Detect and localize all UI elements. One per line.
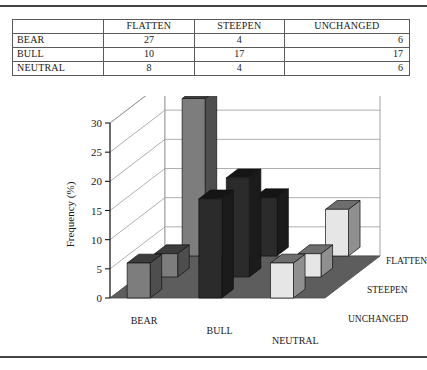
row-label-bear: BEAR: [13, 34, 104, 48]
y-axis-tick-label: 10: [91, 234, 103, 246]
column-header-unchanged: UNCHANGED: [284, 20, 409, 34]
table-row: BEAR 27 4 6: [13, 34, 410, 48]
cell-bull-flatten: 10: [104, 48, 195, 62]
y-axis-tick-label: 15: [91, 205, 103, 217]
x-axis-label-neutral: NEUTRAL: [272, 335, 319, 346]
page-top-rule: [0, 5, 427, 7]
x-axis-label-bull: BULL: [207, 325, 233, 336]
depth-axis-label-steepen: STEEPEN: [367, 285, 408, 295]
bar-bull-unchanged: [199, 190, 234, 298]
table-row: NEUTRAL 8 4 6: [13, 62, 410, 76]
y-axis-tick-label: 5: [97, 263, 103, 275]
frequency-table-container: FLATTEN STEEPEN UNCHANGED BEAR 27 4 6 BU…: [12, 19, 410, 76]
depth-axis-label-flatten: FLATTEN: [386, 256, 427, 266]
row-label-neutral: NEUTRAL: [13, 62, 104, 76]
page-bottom-rule: [0, 356, 427, 358]
cell-neutral-flatten: 8: [104, 62, 195, 76]
cell-bear-steepen: 4: [194, 34, 284, 48]
frequency-3d-bar-chart: 051015202530Frequency (%)BEARBULLNEUTRAL…: [0, 96, 427, 351]
y-axis-tick-label: 0: [97, 292, 103, 304]
cell-bull-unchanged: 17: [284, 48, 409, 62]
cell-neutral-unchanged: 6: [284, 62, 409, 76]
chart-canvas: 051015202530Frequency (%)BEARBULLNEUTRAL…: [0, 96, 427, 351]
y-axis-tick-label: 25: [91, 146, 103, 158]
y-axis-tick-label: 30: [91, 117, 103, 129]
y-axis-title: Frequency (%): [64, 181, 77, 247]
bar-neutral-unchanged: [271, 254, 306, 298]
depth-axis-label-unchanged: UNCHANGED: [348, 314, 408, 324]
table-corner-cell: [13, 20, 104, 34]
table-header-row: FLATTEN STEEPEN UNCHANGED: [13, 20, 410, 34]
row-label-bull: BULL: [13, 48, 104, 62]
cell-bear-flatten: 27: [104, 34, 195, 48]
cell-bear-unchanged: 6: [284, 34, 409, 48]
frequency-table: FLATTEN STEEPEN UNCHANGED BEAR 27 4 6 BU…: [12, 19, 410, 76]
bar-bear-unchanged: [127, 254, 162, 298]
y-axis-tick-label: 20: [91, 175, 103, 187]
x-axis-label-bear: BEAR: [131, 315, 158, 326]
column-header-steepen: STEEPEN: [194, 20, 284, 34]
cell-neutral-steepen: 4: [194, 62, 284, 76]
column-header-flatten: FLATTEN: [104, 20, 195, 34]
table-row: BULL 10 17 17: [13, 48, 410, 62]
cell-bull-steepen: 17: [194, 48, 284, 62]
